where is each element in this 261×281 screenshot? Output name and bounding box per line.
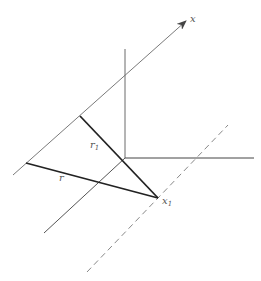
x1-label: x1 <box>162 195 172 208</box>
x-axis-label: x <box>190 13 196 24</box>
r1-segment <box>80 116 158 198</box>
parallel-line-through-origin <box>44 158 125 233</box>
r-segment <box>26 163 158 198</box>
x-axis-line <box>13 21 186 175</box>
r1-label: r1 <box>90 139 99 152</box>
diagram-canvas: x r1 r x1 <box>0 0 261 281</box>
